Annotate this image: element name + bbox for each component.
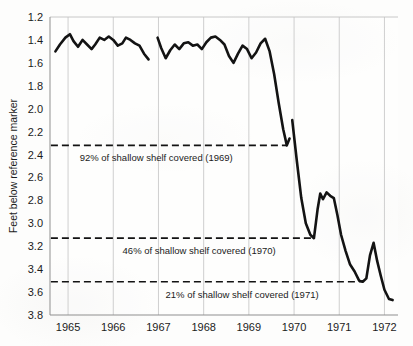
- y-tick-label-3.8: 3.8: [28, 309, 43, 321]
- y-tick-label-2.6: 2.6: [28, 171, 43, 183]
- y-tick-label-3.6: 3.6: [28, 286, 43, 298]
- y-tick-label-2.8: 2.8: [28, 194, 43, 206]
- plot-background: [50, 17, 398, 315]
- y-tick-label-2.4: 2.4: [28, 149, 43, 161]
- chart-figure: 1.21.41.61.82.02.22.42.62.83.03.23.43.63…: [0, 0, 413, 346]
- y-tick-label-3.2: 3.2: [28, 240, 43, 252]
- y-tick-label-3.0: 3.0: [28, 217, 43, 229]
- y-tick-label-2.2: 2.2: [28, 126, 43, 138]
- reference-line-1970-label: 46% of shallow shelf covered (1970): [123, 245, 276, 256]
- x-tick-label-1969: 1969: [237, 321, 261, 333]
- y-axis-title: Feet below reference marker: [7, 98, 19, 233]
- x-tick-label-1971: 1971: [327, 321, 351, 333]
- y-tick-label-3.4: 3.4: [28, 263, 43, 275]
- x-tick-label-1972: 1972: [372, 321, 396, 333]
- y-tick-label-1.8: 1.8: [28, 80, 43, 92]
- y-tick-label-1.4: 1.4: [28, 34, 43, 46]
- x-tick-label-1966: 1966: [101, 321, 125, 333]
- reference-line-1969-label: 92% of shallow shelf covered (1969): [80, 152, 233, 163]
- x-tick-label-1970: 1970: [282, 321, 306, 333]
- x-tick-label-1967: 1967: [146, 321, 170, 333]
- x-tick-label-1968: 1968: [191, 321, 215, 333]
- y-tick-label-1.6: 1.6: [28, 57, 43, 69]
- y-tick-label-1.2: 1.2: [28, 11, 43, 23]
- y-axis-ticks: 1.21.41.61.82.02.22.42.62.83.03.23.43.63…: [28, 11, 43, 321]
- line-chart: 1.21.41.61.82.02.22.42.62.83.03.23.43.63…: [0, 0, 413, 346]
- reference-line-1971-label: 21% of shallow shelf covered (1971): [165, 289, 318, 300]
- x-axis-ticks: 19651966196719681969197019711972: [56, 321, 397, 333]
- x-tick-label-1965: 1965: [56, 321, 80, 333]
- y-tick-label-2.0: 2.0: [28, 103, 43, 115]
